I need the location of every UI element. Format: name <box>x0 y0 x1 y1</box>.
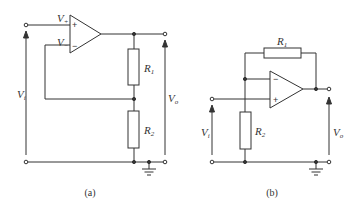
terminal-vi-bottom <box>210 160 214 164</box>
terminal-vo-bottom <box>327 160 331 164</box>
resistor-r2-b <box>240 112 251 149</box>
label-v-plus: V+ <box>57 12 69 26</box>
terminal-vo-top <box>163 32 167 36</box>
resistor-r1-b <box>264 48 301 58</box>
label-vo-b: Vo <box>333 126 344 140</box>
caption-a: (a) <box>84 187 95 199</box>
circuit-diagrams: V+ V− + − R1 R2 Vi Vo (a) R1 − + R2 Vi V… <box>0 0 357 210</box>
arrow-up-icon <box>210 105 215 155</box>
resistor-r1-a <box>128 49 139 85</box>
label-r1-a: R1 <box>143 62 154 76</box>
circuit-a <box>24 15 168 175</box>
label-r1-b: R1 <box>276 35 287 49</box>
terminal-vo-top <box>327 87 331 91</box>
terminal-vi-top <box>210 97 214 101</box>
arrow-up-icon <box>24 31 29 155</box>
junction-dot <box>132 160 135 163</box>
circuit-b <box>210 48 332 175</box>
resistor-r2-a <box>128 111 139 148</box>
label-vi-a: Vi <box>17 88 26 102</box>
caption-b: (b) <box>266 187 278 199</box>
junction-dot <box>243 160 246 163</box>
label-r2-b: R2 <box>254 125 266 139</box>
terminal-vo-bottom <box>163 160 167 164</box>
op-amp-minus-sign: − <box>273 74 278 84</box>
op-amp-minus-sign: − <box>72 41 77 51</box>
label-v-minus: V− <box>57 36 69 50</box>
label-vi-b: Vi <box>201 126 210 140</box>
op-amp-plus-sign: + <box>273 95 278 105</box>
label-vo-a: Vo <box>168 92 179 106</box>
ground-icon <box>142 162 156 175</box>
ground-icon <box>309 162 323 175</box>
terminal-vi-bottom <box>24 160 28 164</box>
arrow-up-icon <box>327 97 332 155</box>
op-amp-plus-sign: + <box>72 20 77 30</box>
label-r2-a: R2 <box>143 124 155 138</box>
terminal-vi-top <box>24 23 28 27</box>
arrow-up-icon <box>163 40 168 155</box>
junction-dot <box>314 87 317 90</box>
